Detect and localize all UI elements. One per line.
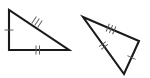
left-triangle bbox=[5, 10, 70, 55]
right-triangle-rotated bbox=[83, 17, 139, 74]
triple-tick-a bbox=[32, 17, 37, 24]
right-triangle-top-edge-ticks bbox=[106, 24, 116, 34]
triple-tick-c bbox=[38, 20, 43, 27]
left-triangle-outline bbox=[9, 10, 69, 50]
geometry-svg bbox=[0, 0, 150, 78]
triple-tick-b bbox=[35, 19, 40, 26]
right-triangle-outline bbox=[83, 17, 139, 74]
geometry-diagram-canvas bbox=[0, 0, 150, 78]
